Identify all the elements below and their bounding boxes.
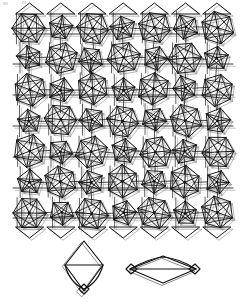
motif-hub	[183, 181, 186, 184]
motif-hub	[90, 118, 93, 121]
motif-hub	[123, 149, 126, 152]
motif-hub	[90, 150, 93, 153]
motif-hub	[184, 212, 187, 215]
motif-hub	[216, 26, 219, 29]
motif-hub	[153, 118, 156, 121]
scan-speck	[22, 1, 26, 4]
motif-hub	[122, 56, 125, 59]
motif-hub	[152, 87, 155, 90]
motif-hub	[91, 27, 94, 30]
motif-hub	[59, 26, 62, 29]
figure-root	[0, 0, 245, 308]
motif-hub	[27, 120, 30, 123]
motif-hub	[154, 56, 157, 59]
motif-hub	[59, 89, 62, 92]
motif-hub	[216, 151, 219, 154]
motif-hub	[60, 57, 63, 60]
motif-hub	[153, 211, 156, 214]
motif-hub	[27, 27, 30, 30]
motif-hub	[90, 212, 93, 215]
scan-speck	[3, 2, 8, 5]
tiling-figure-svg	[0, 0, 245, 308]
motif-hub	[28, 88, 31, 91]
motif-hub	[123, 211, 126, 214]
motif-hub	[121, 27, 124, 30]
motif-hub	[61, 153, 63, 155]
motif-hub	[122, 89, 125, 92]
motif-hub	[59, 118, 62, 121]
motif-hub	[60, 211, 63, 214]
motif-hub	[184, 119, 187, 122]
motif-hub	[183, 57, 186, 60]
motif-hub	[216, 88, 219, 91]
motif-hub	[90, 181, 93, 184]
motif-hub	[216, 211, 219, 214]
motif-hub	[28, 212, 31, 215]
motif-hub	[183, 150, 186, 153]
motif-hub	[90, 58, 93, 61]
motif-spoke	[218, 151, 234, 152]
motif-hub	[59, 150, 62, 153]
motif-hub	[28, 150, 31, 153]
motif-hub	[219, 29, 221, 31]
motif-hub	[184, 25, 187, 28]
motif-hub	[154, 151, 157, 154]
motif-hub	[216, 119, 219, 122]
motif-hub	[28, 56, 31, 59]
motif-hub	[121, 180, 124, 183]
motif-hub	[153, 180, 156, 183]
motif-hub	[184, 87, 187, 90]
motif-hub	[121, 120, 124, 123]
motif-hub	[91, 87, 94, 90]
motif-hub	[153, 26, 156, 29]
motif-hub	[186, 122, 188, 124]
motif-hub	[28, 181, 31, 184]
motif-hub	[215, 57, 218, 60]
motif-spoke	[92, 73, 93, 89]
motif-hub	[59, 180, 62, 183]
motif-hub	[216, 181, 219, 184]
